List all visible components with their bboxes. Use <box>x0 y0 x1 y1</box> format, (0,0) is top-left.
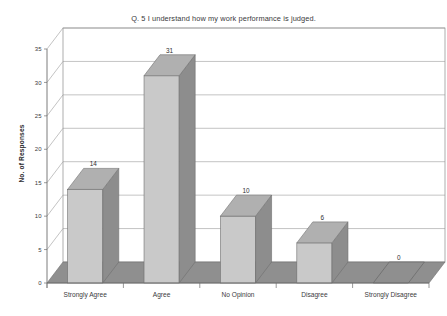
bar-value-label: 0 <box>397 254 401 261</box>
bar-front-face <box>68 189 103 283</box>
y-tick-labels: 05101520253035 <box>35 46 42 286</box>
bar-value-label: 14 <box>90 160 98 167</box>
x-axis <box>47 283 429 288</box>
bar-front-face <box>144 76 179 283</box>
bar-front-face <box>297 243 332 283</box>
y-tick-label: 35 <box>35 46 42 52</box>
x-tick-label: Strongly Agree <box>64 291 108 299</box>
bar-value-label: 6 <box>321 214 325 221</box>
y-tick-label: 0 <box>38 280 42 286</box>
bar-front-face <box>220 216 255 283</box>
x-tick-label: No Opinion <box>222 291 255 299</box>
bar-side-face <box>179 55 195 283</box>
bar-value-label: 10 <box>242 187 250 194</box>
y-tick-label: 5 <box>38 247 42 253</box>
bar-column <box>220 195 271 283</box>
bar-value-label: 31 <box>166 47 174 54</box>
y-tick-label: 15 <box>35 180 42 186</box>
y-tick-label: 25 <box>35 113 42 119</box>
y-tick-label: 10 <box>35 213 42 219</box>
x-tick-label: Agree <box>153 291 171 299</box>
bar-chart: Q. 5 I understand how my work performanc… <box>0 0 447 316</box>
y-tick-label: 20 <box>35 146 42 152</box>
x-tick-labels: Strongly AgreeAgreeNo OpinionDisagreeStr… <box>64 291 418 299</box>
bar-column <box>68 168 119 283</box>
bar-column <box>144 55 195 283</box>
x-tick-label: Disagree <box>301 291 328 299</box>
x-tick-label: Strongly Disagree <box>365 291 418 299</box>
y-axis <box>44 49 47 283</box>
plot-area: 05101520253035 14311060 Strongly AgreeAg… <box>0 0 447 316</box>
side-wall-connectors <box>47 28 63 250</box>
y-tick-label: 30 <box>35 80 42 86</box>
